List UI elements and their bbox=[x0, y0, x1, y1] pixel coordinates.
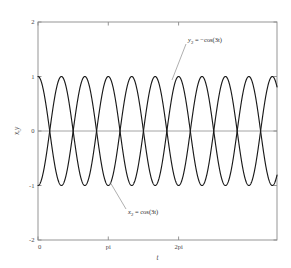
y-tick-label-4: -2 bbox=[29, 236, 35, 243]
x-tick-label-1: pi bbox=[106, 243, 111, 250]
chart-canvas: 0pi2pi 210-1-2 t x,y y2 = −cos(3t)x2 = c… bbox=[0, 0, 291, 268]
y-tick-label-3: -1 bbox=[29, 182, 35, 189]
y-tick-label-1: 1 bbox=[31, 73, 34, 80]
y-axis-label: x,y bbox=[13, 126, 21, 136]
figure-background bbox=[0, 0, 291, 268]
y-tick-label-0: 2 bbox=[31, 18, 34, 25]
x-tick-label-2: 2pi bbox=[174, 243, 183, 250]
figure-container: 0pi2pi 210-1-2 t x,y y2 = −cos(3t)x2 = c… bbox=[0, 0, 291, 268]
